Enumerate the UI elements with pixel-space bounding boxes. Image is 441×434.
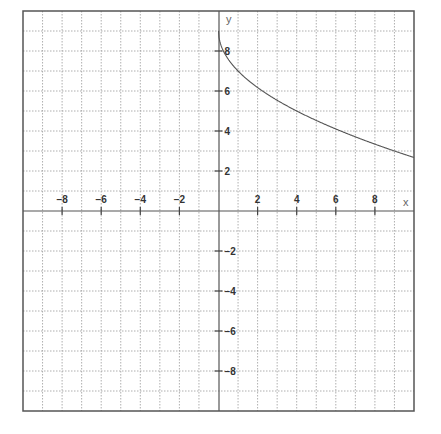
x-tick-label: −2 [174,194,186,205]
x-tick-label: −4 [135,194,147,205]
y-tick-label: −6 [225,326,237,337]
y-tick-label: −2 [225,246,237,257]
y-tick-label: 4 [225,126,231,137]
function-plot: −8−6−4−224688642−2−4−6−8 x y [0,0,441,434]
y-tick-label: −4 [225,286,237,297]
y-tick-label: −8 [225,366,237,377]
x-axis-label: x [403,196,409,208]
x-tick-label: 6 [333,194,339,205]
x-tick-label: 8 [372,194,378,205]
function-curve [219,31,415,157]
x-tick-label: −6 [95,194,107,205]
y-tick-label: 2 [225,166,231,177]
x-tick-label: −8 [56,194,68,205]
y-tick-label: 6 [225,86,231,97]
x-tick-label: 2 [255,194,261,205]
y-axis-label: y [226,13,232,25]
x-tick-label: 4 [294,194,300,205]
